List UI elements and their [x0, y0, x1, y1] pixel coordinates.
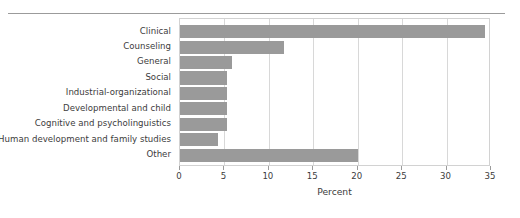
bar — [180, 41, 284, 54]
x-tick-label: 5 — [221, 171, 226, 181]
bar-row — [180, 70, 491, 86]
category-label: Other — [146, 146, 171, 162]
x-tick-label: 15 — [307, 171, 318, 181]
bar-chart-figure: ClinicalCounselingGeneralSocialIndustria… — [0, 0, 520, 218]
plot-area — [179, 18, 490, 166]
bar — [180, 25, 485, 38]
category-label: Industrial-organizational — [66, 84, 171, 100]
x-tick-label: 0 — [176, 171, 181, 181]
category-label: Clinical — [140, 23, 171, 39]
bar — [180, 149, 358, 162]
category-label: General — [137, 53, 171, 69]
category-label: Developmental and child — [63, 100, 171, 116]
category-label: Social — [145, 69, 171, 85]
bar-row — [180, 147, 491, 163]
x-tick-mark — [401, 166, 402, 170]
bar-row — [180, 39, 491, 55]
category-label-column: ClinicalCounselingGeneralSocialIndustria… — [0, 18, 175, 166]
bar — [180, 71, 227, 84]
x-tick-mark — [446, 166, 447, 170]
x-tick-mark — [268, 166, 269, 170]
bar — [180, 118, 227, 131]
x-tick-mark — [357, 166, 358, 170]
category-label: Cognitive and psycholinguistics — [35, 115, 171, 131]
header-divider — [8, 13, 505, 14]
x-tick-label: 20 — [351, 171, 362, 181]
bar — [180, 133, 218, 146]
x-tick-label: 10 — [262, 171, 273, 181]
bar-row — [180, 24, 491, 40]
bar-row — [180, 132, 491, 148]
x-tick-mark — [490, 166, 491, 170]
category-label: Counseling — [123, 38, 171, 54]
bar-row — [180, 101, 491, 117]
x-axis: Percent 05101520253035 — [179, 166, 490, 206]
bar-row — [180, 54, 491, 70]
x-tick-label: 30 — [440, 171, 451, 181]
x-tick-label: 35 — [485, 171, 496, 181]
bar — [180, 102, 227, 115]
x-tick-label: 25 — [396, 171, 407, 181]
bar — [180, 56, 232, 69]
x-tick-mark — [312, 166, 313, 170]
category-label: Human development and family studies — [0, 131, 171, 147]
bar-row — [180, 85, 491, 101]
bar-row — [180, 116, 491, 132]
bar — [180, 87, 227, 100]
x-tick-mark — [179, 166, 180, 170]
x-axis-title: Percent — [179, 186, 490, 197]
x-tick-mark — [223, 166, 224, 170]
